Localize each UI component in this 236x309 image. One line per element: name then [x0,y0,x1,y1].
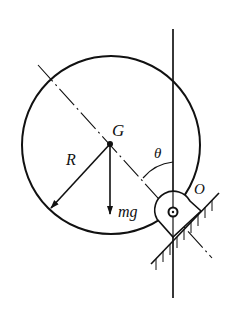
label-o: O [194,181,205,197]
label-r: R [65,151,76,168]
pivot-dot [172,211,174,213]
label-mg: mg [118,203,138,221]
label-g: G [112,121,124,140]
diagram-canvas: G R θ O mg [0,0,236,309]
label-theta: θ [154,145,162,161]
radius-arrow [51,144,110,208]
axis-line [38,65,212,258]
angle-arc [143,162,173,178]
